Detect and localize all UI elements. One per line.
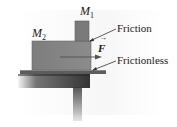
vector-arrow-icon: → bbox=[99, 33, 107, 42]
table-top-edge bbox=[18, 74, 90, 76]
block-m2 bbox=[32, 41, 91, 70]
label-friction: Friction bbox=[117, 22, 152, 34]
table-top bbox=[18, 74, 90, 88]
label-force: → F bbox=[98, 42, 105, 54]
table-leg bbox=[73, 87, 82, 121]
diagram-stage: M1 M2 → F Friction Frictionless bbox=[0, 0, 177, 127]
block-m1 bbox=[75, 21, 89, 41]
label-m2: M2 bbox=[32, 26, 46, 42]
label-m1: M1 bbox=[80, 4, 94, 20]
label-frictionless: Frictionless bbox=[117, 54, 168, 66]
